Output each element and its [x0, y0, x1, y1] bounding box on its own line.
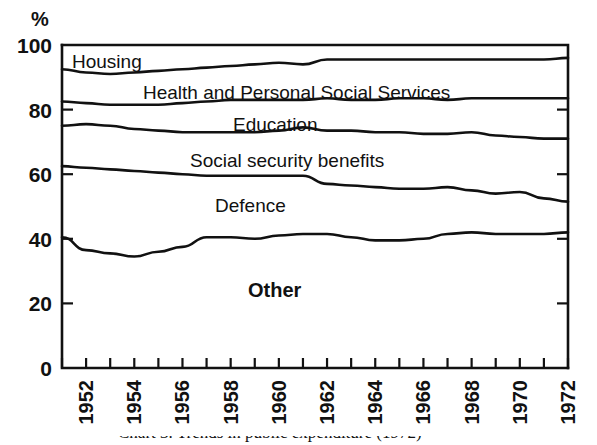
chart-figure: 020406080100%195219541956195819601962196…	[0, 0, 597, 445]
x-axis-label-1970: 1970	[509, 380, 531, 425]
x-axis-label-1962: 1962	[316, 380, 338, 425]
y-axis-label-0: 0	[40, 357, 52, 380]
x-axis-label-1972: 1972	[557, 380, 579, 425]
y-axis-label-60: 60	[29, 163, 52, 186]
y-axis-label-100: 100	[17, 34, 52, 57]
x-axis-label-1960: 1960	[268, 380, 290, 425]
figure-caption-text: Chart 3. Trends in public expenditure (1…	[118, 436, 422, 443]
x-axis-label-1958: 1958	[220, 380, 242, 425]
x-axis-label-1952: 1952	[75, 380, 97, 425]
x-axis-label-1966: 1966	[412, 380, 434, 425]
x-axis-label-1954: 1954	[123, 379, 145, 424]
series-boundary-defence	[62, 166, 568, 202]
x-axis-label-1964: 1964	[364, 379, 386, 424]
band-label-social-security-benefits: Social security benefits	[190, 150, 384, 171]
band-label-education: Education	[233, 114, 318, 135]
x-axis-label-1956: 1956	[171, 380, 193, 425]
band-label-other: Other	[248, 279, 302, 301]
y-axis-unit: %	[31, 8, 49, 30]
y-axis-label-80: 80	[29, 99, 52, 122]
series-boundary-other	[62, 232, 568, 256]
y-axis-label-40: 40	[29, 228, 52, 251]
figure-caption-clipped: Chart 3. Trends in public expenditure (1…	[0, 436, 597, 445]
band-label-housing: Housing	[72, 51, 142, 72]
band-label-defence: Defence	[215, 195, 286, 216]
stacked-area-chart: 020406080100%195219541956195819601962196…	[0, 0, 597, 445]
x-axis-label-1968: 1968	[461, 380, 483, 425]
band-label-health-and-personal-social-services: Health and Personal Social Services	[143, 82, 450, 103]
y-axis-label-20: 20	[29, 292, 52, 315]
